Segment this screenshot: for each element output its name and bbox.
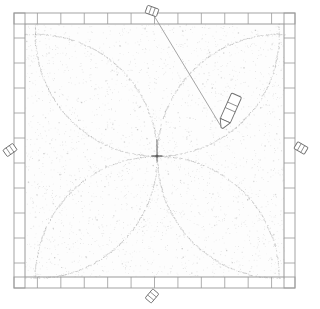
speckle [192,171,193,172]
arc-dot [258,35,259,36]
speckle [154,120,155,121]
speckle [193,245,194,246]
arc-dot [142,97,143,98]
speckle [256,88,257,89]
speckle [155,83,156,84]
speckle [55,247,56,248]
speckle [120,173,121,174]
arc-dot [277,56,278,57]
speckle [116,84,117,85]
arc-dot [158,171,159,172]
speckle [213,70,214,71]
speckle [137,129,138,130]
speckle [180,118,181,119]
speckle [96,219,97,220]
speckle [268,243,269,244]
arc-dot [270,234,271,235]
arc-dot [69,38,70,39]
speckle [73,232,74,233]
arc-dot [65,114,66,115]
speckle [68,191,69,192]
arc-dot [269,35,270,36]
speckle [81,239,82,240]
arc-dot [121,69,122,70]
speckle [79,179,80,180]
arc-dot [56,209,57,210]
speckle [73,184,74,185]
speckle [110,89,111,90]
speckle [259,239,260,240]
arc-dot [101,259,102,260]
speckle [255,78,256,79]
speckle [262,107,263,108]
speckle [175,213,176,214]
arc-dot [171,99,172,100]
speckle [52,190,53,191]
speckle [239,72,240,73]
speckle [149,142,150,143]
speckle [108,60,109,61]
arc-dot [157,164,158,165]
speckle [103,230,104,231]
speckle [210,193,211,194]
speckle [259,94,260,95]
speckle [99,214,100,215]
speckle [150,78,151,79]
arc-dot [230,268,231,269]
arc-dot [158,153,159,154]
arc-dot [243,120,244,121]
arc-dot [173,95,174,96]
speckle [73,252,74,253]
speckle [257,35,258,36]
speckle [95,241,96,242]
arc-dot [267,87,268,88]
arc-dot [160,129,161,130]
speckle [154,82,155,83]
arc-dot [128,159,129,160]
speckle [27,204,28,205]
speckle [152,186,153,187]
arc-dot [273,74,274,75]
speckle [178,46,179,47]
speckle [215,63,216,64]
arc-dot [254,109,255,110]
speckle [189,175,190,176]
arc-dot [236,271,237,272]
speckle [232,262,233,263]
speckle [214,206,215,207]
speckle [217,164,218,165]
arc-dot [259,211,260,212]
speckle [235,246,236,247]
speckle [26,76,27,77]
speckle [66,271,67,272]
arc-dot [182,230,183,231]
speckle [225,161,226,162]
arc-dot [125,239,126,240]
speckle [258,215,259,216]
speckle [79,222,80,223]
speckle [261,38,262,39]
speckle [34,182,35,183]
speckle [39,99,40,100]
arc-dot [41,71,42,72]
speckle [162,32,163,33]
arc-dot [177,154,178,155]
speckle [202,83,203,84]
speckle [105,129,106,130]
speckle [33,203,34,204]
arc-dot [195,150,196,151]
arc-dot [128,153,129,154]
speckle [88,244,89,245]
arc-dot [123,240,124,241]
speckle [268,122,269,123]
speckle [94,89,95,90]
arc-dot [76,271,77,272]
speckle [26,146,27,147]
arc-dot [179,87,180,88]
speckle [207,110,208,111]
arc-dot [271,79,272,80]
speckle [122,180,123,181]
arc-dot [262,96,263,97]
speckle [170,272,171,273]
speckle [116,42,117,43]
